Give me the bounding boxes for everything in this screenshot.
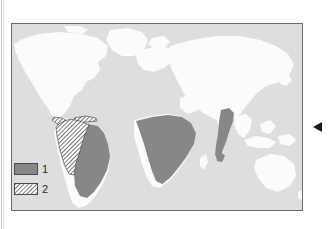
legend-item-2: 2 <box>14 183 60 197</box>
legend-swatch-category-1 <box>14 163 38 175</box>
map-legend: 1 2 <box>14 163 60 203</box>
legend-hatch-svg <box>15 184 37 194</box>
legend-label-category-1: 1 <box>42 162 48 176</box>
legend-item-1: 1 <box>14 163 60 177</box>
page-edge-rule <box>1 0 2 229</box>
legend-label-category-2: 2 <box>42 182 48 196</box>
pointer-arrow-icon <box>313 122 322 132</box>
legend-swatch-category-2 <box>14 183 38 195</box>
page-edge-rule-secondary <box>3 0 4 229</box>
figure-canvas: 1 2 <box>0 0 329 229</box>
